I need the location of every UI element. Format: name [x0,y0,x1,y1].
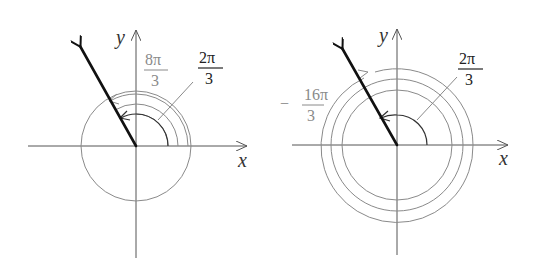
numerator: 2π [199,49,215,66]
right-figure: x y − 16π 3 2π 3 [280,24,508,255]
terminal-side-vector [80,46,136,146]
coterminal-angles-diagram: x y 8π 3 2π 3 x y [0,0,536,269]
y-axis-label: y [114,26,125,49]
numerator: 8π [145,51,161,68]
label-neg-16pi-3: − 16π 3 [280,86,328,124]
denominator: 3 [465,71,473,88]
x-axis-label: x [237,149,247,171]
label-8pi-3: 8π 3 [144,51,168,89]
terminal-side-vector [342,48,397,145]
left-figure: x y 8π 3 2π 3 [28,26,247,258]
label-2pi-3: 2π 3 [458,50,483,88]
denominator: 3 [307,107,315,124]
sign: − [280,95,289,112]
numerator: 2π [459,50,475,67]
label-2pi-3: 2π 3 [198,49,223,87]
denominator: 3 [151,72,159,89]
numerator: 16π [304,86,328,103]
y-axis-label: y [377,24,388,47]
denominator: 3 [205,70,213,87]
leader-line [417,77,457,120]
x-axis-label: x [498,147,508,169]
